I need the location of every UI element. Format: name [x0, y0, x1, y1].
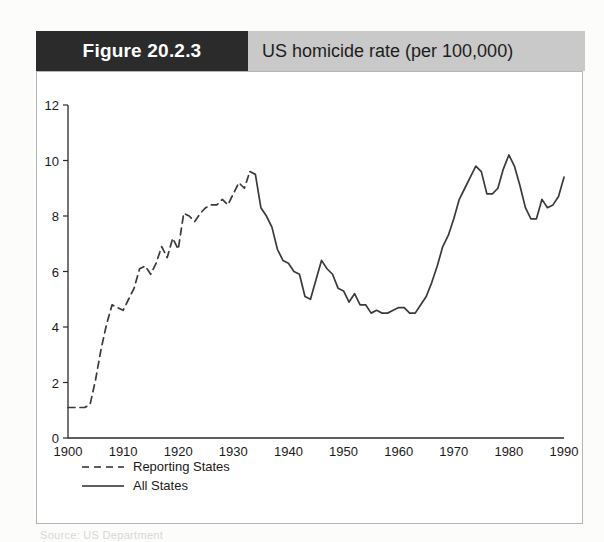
y-axis-tick-8: 8	[33, 209, 59, 224]
y-axis-tick-4: 4	[33, 320, 59, 335]
legend-key-solid-line-icon	[81, 480, 125, 492]
chart-legend: Reporting StatesAll States	[81, 457, 230, 495]
x-axis-tick-1960: 1960	[384, 444, 413, 459]
x-axis-tick-1990: 1990	[550, 444, 579, 459]
figure-header: Figure 20.2.3 US homicide rate (per 100,…	[36, 31, 585, 71]
y-axis-tick-2: 2	[33, 375, 59, 390]
x-axis-tick-1970: 1970	[439, 444, 468, 459]
figure-title: US homicide rate (per 100,000)	[248, 31, 585, 71]
figure-panel: 024681012 190019101920193019401950196019…	[36, 71, 583, 524]
figure-number-label: Figure 20.2.3	[83, 40, 202, 62]
chart-area: 024681012 190019101920193019401950196019…	[37, 72, 584, 525]
figure-caption-partial: Source: US Department	[40, 529, 163, 541]
x-axis-tick-1980: 1980	[494, 444, 523, 459]
legend-item-1: Reporting States	[81, 457, 230, 476]
y-axis-tick-12: 12	[33, 98, 59, 113]
y-axis-tick-6: 6	[33, 264, 59, 279]
legend-label-1: Reporting States	[133, 459, 230, 474]
y-axis-tick-10: 10	[33, 153, 59, 168]
legend-label-2: All States	[133, 478, 188, 493]
x-axis-tick-1950: 1950	[329, 444, 358, 459]
x-axis-tick-1940: 1940	[274, 444, 303, 459]
legend-key-dashed-line-icon	[81, 461, 125, 473]
figure-number-block: Figure 20.2.3	[36, 31, 248, 71]
x-axis-tick-1900: 1900	[54, 444, 83, 459]
legend-item-2: All States	[81, 476, 230, 495]
